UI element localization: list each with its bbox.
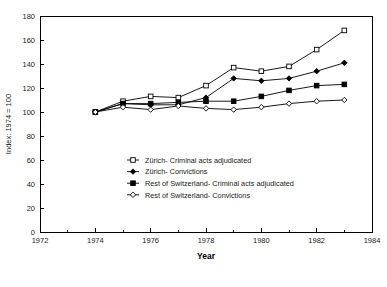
legend-label: Zürich- Criminal acts adjudicated	[145, 156, 251, 165]
data-point	[342, 97, 347, 102]
legend-item-1[interactable]: Zürich- Convictions	[127, 167, 208, 176]
data-point	[231, 76, 236, 81]
series-line-0	[95, 30, 344, 112]
legend-marker-filled-diamond	[130, 169, 135, 174]
data-point	[204, 99, 209, 104]
x-tick-label: 1984	[364, 236, 381, 245]
y-tick-label: 100	[22, 108, 35, 117]
data-point	[314, 83, 319, 88]
legend-label: Rest of Switzerland- Convictions	[145, 191, 250, 200]
data-point	[314, 69, 319, 74]
data-point	[231, 99, 236, 104]
line-chart: 0204060801001201401601801972197419761978…	[0, 0, 387, 287]
data-point	[148, 101, 153, 106]
data-point	[148, 94, 153, 99]
data-point	[259, 105, 264, 110]
x-tick-label: 1976	[142, 236, 159, 245]
data-point	[231, 107, 236, 112]
data-point	[342, 60, 347, 65]
data-point	[204, 83, 209, 88]
data-point	[342, 82, 347, 87]
data-point	[259, 69, 264, 74]
x-axis-title: Year	[197, 251, 216, 261]
y-tick-label: 140	[22, 60, 35, 69]
data-point	[287, 88, 292, 93]
legend-marker-open-square	[131, 158, 136, 163]
x-tick-label: 1972	[32, 236, 49, 245]
data-point	[148, 107, 153, 112]
data-point	[287, 64, 292, 69]
y-tick-label: 120	[22, 84, 35, 93]
legend-item-2[interactable]: Rest of Switzerland- Criminal acts adjud…	[127, 179, 294, 188]
series-2	[93, 82, 347, 114]
data-point	[314, 99, 319, 104]
legend-item-3[interactable]: Rest of Switzerland- Convictions	[127, 191, 250, 200]
data-point	[176, 95, 181, 100]
y-tick-label: 180	[22, 12, 35, 21]
series-line-3	[95, 100, 344, 112]
x-tick-label: 1982	[308, 236, 325, 245]
data-point	[259, 94, 264, 99]
y-tick-label: 60	[27, 156, 35, 165]
data-point	[203, 106, 208, 111]
data-point	[259, 78, 264, 83]
y-tick-label: 20	[27, 204, 35, 213]
chart-canvas: 0204060801001201401601801972197419761978…	[0, 0, 387, 287]
x-tick-label: 1978	[198, 236, 215, 245]
data-point	[342, 28, 347, 33]
data-point	[286, 76, 291, 81]
data-point	[231, 65, 236, 70]
y-axis-title: Index: 1974 = 100	[4, 94, 13, 154]
x-tick-label: 1974	[87, 236, 104, 245]
legend-marker-filled-square	[131, 181, 136, 186]
legend-marker-open-diamond	[130, 192, 135, 197]
y-tick-label: 160	[22, 36, 35, 45]
legend-item-0[interactable]: Zürich- Criminal acts adjudicated	[127, 156, 251, 165]
x-tick-label: 1980	[253, 236, 270, 245]
data-point	[286, 101, 291, 106]
legend-label: Rest of Switzerland- Criminal acts adjud…	[145, 179, 294, 188]
data-point	[314, 47, 319, 52]
y-tick-label: 40	[27, 180, 35, 189]
y-tick-label: 80	[27, 132, 35, 141]
legend-label: Zürich- Convictions	[145, 167, 208, 176]
